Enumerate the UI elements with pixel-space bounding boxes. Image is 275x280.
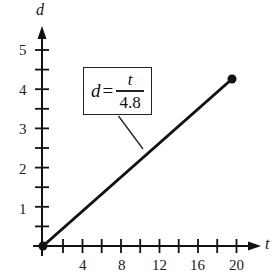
- x-axis-label: t: [265, 236, 269, 252]
- x-axis-arrow-icon: [248, 242, 261, 251]
- y-tick-label: 1: [19, 202, 27, 217]
- y-axis-arrow-icon: [38, 26, 47, 39]
- formula-lhs: d: [91, 80, 101, 102]
- callout-leader: [119, 116, 144, 149]
- formula-equals: =: [102, 80, 113, 102]
- x-tick-label: 16: [190, 258, 205, 273]
- start-point: [39, 242, 48, 251]
- y-tick-label: 5: [19, 43, 27, 58]
- formula-denominator: 4.8: [119, 92, 140, 111]
- x-tick-label: 20: [229, 258, 244, 273]
- y-tick-label: 3: [19, 122, 27, 137]
- end-point: [228, 75, 237, 84]
- formula-fraction: t 4.8: [116, 71, 144, 110]
- x-tick-label: 8: [118, 258, 126, 273]
- formula-callout: d = t 4.8: [83, 67, 152, 115]
- chart-figure: ): [0, 0, 275, 280]
- x-tick-label: 12: [152, 258, 167, 273]
- y-tick-label: 2: [19, 162, 27, 177]
- plot-area: [0, 0, 275, 280]
- y-axis-label: d: [36, 2, 44, 18]
- x-tick-label: 4: [79, 258, 87, 273]
- formula-numerator: t: [128, 71, 133, 90]
- y-tick-label: 4: [19, 83, 27, 98]
